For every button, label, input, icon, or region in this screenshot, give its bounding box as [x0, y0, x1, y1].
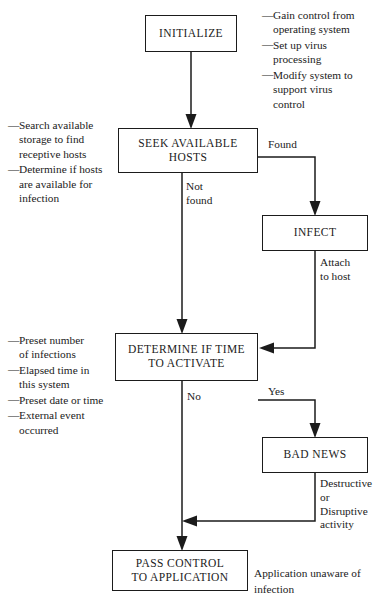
edge-label-destructive-or-disruptive-activity: Destructive or Disruptive activity [320, 477, 372, 532]
note-initialize-item: — Modify system to support virus control [262, 68, 378, 111]
edge-label-found: Found [268, 138, 297, 152]
em-dash-bullet-icon: — [8, 333, 19, 347]
note-seek-available-hosts: — Search available storage to find recep… [8, 118, 120, 207]
note-determine-item: — Preset number of infections [8, 333, 118, 362]
note-initialize: — Gain control from operating system — S… [262, 8, 378, 112]
edge-infect-to-determine [266, 251, 315, 348]
arrowhead-badnews-to-main-spine [182, 516, 197, 527]
note-seek-item: — Determine if hosts are available for i… [8, 162, 120, 205]
note-seek-list: — Search available storage to find recep… [8, 118, 120, 206]
node-seek-available-hosts-label: SEEK AVAILABLE HOSTS [138, 137, 237, 164]
em-dash-bullet-icon: — [262, 37, 273, 51]
edge-badnews-to-main-spine [189, 473, 315, 521]
note-seek-item-text: Search available storage to find recepti… [19, 119, 93, 160]
node-initialize[interactable]: INITIALIZE [145, 15, 237, 52]
node-determine-if-time-to-activate[interactable]: DETERMINE IF TIME TO ACTIVATE [115, 333, 258, 381]
arrowhead-initialize-to-seek [186, 114, 197, 129]
note-determine-item: — Preset date or time [8, 393, 118, 407]
note-initialize-item-text: Set up virus processing [273, 39, 327, 65]
arrowhead-determine-to-badnews [310, 423, 321, 438]
note-determine-list: — Preset number of infections — Elapsed … [8, 333, 118, 437]
arrowhead-determine-to-passcontrol [177, 536, 188, 551]
em-dash-bullet-icon: — [8, 408, 19, 422]
node-infect-label: INFECT [294, 226, 337, 240]
note-application-unaware: Application unaware of infection [254, 565, 374, 598]
note-initialize-item-text: Gain control from operating system [273, 9, 355, 35]
note-seek-item: — Search available storage to find recep… [8, 118, 120, 161]
arrowhead-infect-to-determine [259, 343, 274, 354]
node-pass-control-to-application-label: PASS CONTROL TO APPLICATION [131, 557, 228, 584]
note-determine-item-text: External event occurred [19, 409, 85, 435]
node-initialize-label: INITIALIZE [159, 27, 223, 41]
em-dash-bullet-icon: — [8, 162, 19, 176]
node-pass-control-to-application[interactable]: PASS CONTROL TO APPLICATION [112, 550, 248, 591]
note-initialize-item: — Set up virus processing [262, 38, 378, 67]
em-dash-bullet-icon: — [262, 67, 273, 81]
arrowhead-seek-to-determine [177, 319, 188, 334]
node-determine-if-time-to-activate-label: DETERMINE IF TIME TO ACTIVATE [128, 343, 245, 370]
edge-label-no: No [187, 390, 201, 404]
arrowhead-seek-to-infect [310, 201, 321, 216]
node-bad-news[interactable]: BAD NEWS [262, 437, 368, 473]
edge-seek-to-infect [258, 157, 315, 209]
em-dash-bullet-icon: — [8, 392, 19, 406]
edge-label-yes: Yes [268, 385, 284, 399]
note-initialize-list: — Gain control from operating system — S… [262, 8, 378, 111]
node-seek-available-hosts[interactable]: SEEK AVAILABLE HOSTS [118, 128, 258, 173]
note-initialize-item-text: Modify system to support virus control [273, 69, 353, 110]
note-determine-item-text: Elapsed time in this system [19, 364, 89, 390]
note-determine-item: — Elapsed time in this system [8, 363, 118, 392]
note-seek-item-text: Determine if hosts are available for inf… [19, 163, 102, 204]
flowchart-canvas: INITIALIZE SEEK AVAILABLE HOSTS INFECT D… [0, 0, 378, 609]
em-dash-bullet-icon: — [8, 362, 19, 376]
note-determine-item: — External event occurred [8, 408, 118, 437]
edge-label-not-found: Not found [186, 180, 212, 208]
em-dash-bullet-icon: — [262, 8, 273, 22]
em-dash-bullet-icon: — [8, 118, 19, 132]
edge-determine-to-badnews [258, 400, 315, 431]
note-determine-item-text: Preset date or time [19, 394, 103, 406]
note-determine-if-time-to-activate: — Preset number of infections — Elapsed … [8, 333, 118, 438]
edge-label-attach-to-host: Attach to host [320, 256, 350, 284]
node-bad-news-label: BAD NEWS [284, 448, 347, 462]
note-determine-item-text: Preset number of infections [19, 334, 84, 360]
note-initialize-item: — Gain control from operating system [262, 8, 378, 37]
node-infect[interactable]: INFECT [262, 215, 368, 251]
